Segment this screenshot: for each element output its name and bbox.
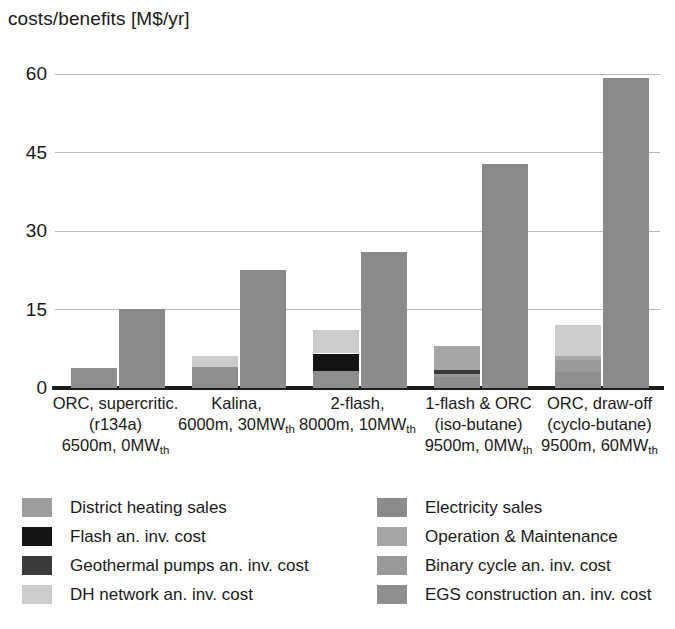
y-axis-tick-label: 60 (1, 64, 47, 83)
bar-segment (71, 368, 117, 388)
bar-segment (192, 367, 238, 388)
legend-swatch-icon (377, 585, 407, 604)
y-axis-tick-label: 30 (1, 221, 47, 240)
legend-label: Flash an. inv. cost (70, 524, 206, 549)
x-axis-label-subscript: th (648, 444, 658, 456)
legend-label: District heating sales (70, 495, 227, 520)
bar-group (418, 48, 539, 388)
legend-label: Operation & Maintenance (425, 524, 618, 549)
legend-swatch-icon (22, 498, 52, 517)
legend-swatch-icon (377, 556, 407, 575)
bar-segment (313, 354, 359, 371)
bar-segment (192, 356, 238, 367)
bar-segment (555, 372, 601, 388)
legend-swatch-icon (22, 556, 52, 575)
cost-bar[interactable] (555, 325, 601, 388)
x-axis-label: ORC, draw-off(cyclo-butane)9500m, 60MWth (517, 393, 675, 458)
cost-bar[interactable] (192, 356, 238, 388)
cost-bar[interactable] (434, 346, 480, 388)
legend-label: Electricity sales (425, 495, 542, 520)
legend-label: Binary cycle an. inv. cost (425, 553, 611, 578)
x-axis-label-line: ORC, draw-off (517, 393, 675, 414)
revenue-bar[interactable] (119, 309, 165, 389)
y-axis-tick-label: 45 (1, 143, 47, 162)
bar-group (539, 48, 660, 388)
bar-segment (313, 330, 359, 353)
legend-swatch-icon (22, 527, 52, 546)
bar-segment (313, 371, 359, 388)
cost-bar[interactable] (71, 368, 117, 388)
x-axis-label-line: 9500m, 60MWth (517, 435, 675, 458)
legend-swatch-icon (377, 498, 407, 517)
revenue-bar[interactable] (482, 164, 528, 388)
revenue-bar[interactable] (603, 78, 649, 388)
bar-group (176, 48, 297, 388)
revenue-bar[interactable] (361, 252, 407, 388)
legend-label: EGS construction an. inv. cost (425, 582, 651, 607)
bar-segment (434, 377, 480, 388)
chart-figure: costs/benefits [M$/yr] 015304560 ORC, su… (0, 0, 675, 629)
bar-segment (434, 370, 480, 374)
revenue-bar[interactable] (240, 270, 286, 388)
bar-group (297, 48, 418, 388)
bar-segment (555, 325, 601, 356)
x-axis-label-line: (cyclo-butane) (517, 414, 675, 435)
cost-bar[interactable] (313, 330, 359, 388)
x-axis-label-line: 6500m, 0MWth (33, 435, 198, 458)
bar-group (55, 48, 176, 388)
bar-segment (434, 346, 480, 371)
chart-title: costs/benefits [M$/yr] (8, 8, 190, 30)
bar-segment (555, 356, 601, 361)
legend-swatch-icon (377, 527, 407, 546)
x-axis-label-subscript: th (160, 444, 170, 456)
plot-area: 015304560 (55, 48, 660, 388)
bar-segment (555, 360, 601, 372)
legend-label: Geothermal pumps an. inv. cost (70, 553, 309, 578)
bar-segment (434, 374, 480, 377)
legend-swatch-icon (22, 585, 52, 604)
x-axis-labels: ORC, supercritic.(r134a)6500m, 0MWthKali… (0, 393, 675, 483)
chart-legend: District heating salesFlash an. inv. cos… (0, 495, 675, 625)
y-axis-tick-label: 15 (1, 300, 47, 319)
legend-label: DH network an. inv. cost (70, 582, 253, 607)
